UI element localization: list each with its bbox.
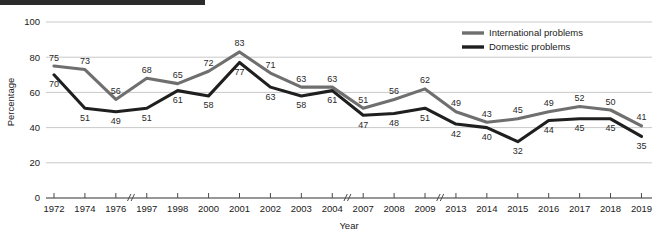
x-tick-label: 1972: [43, 203, 64, 214]
data-point-label: 52: [575, 93, 585, 103]
data-point-label: 83: [235, 38, 245, 48]
x-tick-label: 1997: [136, 203, 157, 214]
data-point-label: 56: [389, 86, 399, 96]
x-tick-label: 2013: [445, 203, 466, 214]
data-point-label: 56: [111, 86, 121, 96]
data-point-label: 45: [606, 123, 616, 133]
y-axis-title: Percentage: [5, 78, 16, 127]
data-point-label: 70: [49, 79, 59, 89]
data-point-label: 75: [49, 53, 59, 63]
data-point-label: 65: [173, 70, 183, 80]
data-point-label: 51: [358, 95, 368, 105]
y-tick-label: 0: [35, 192, 40, 203]
data-point-label: 44: [544, 125, 554, 135]
data-point-label: 58: [296, 100, 306, 110]
data-point-label: 40: [482, 132, 492, 142]
x-tick-label: 2003: [291, 203, 312, 214]
data-point-label: 61: [173, 95, 183, 105]
y-tick-label: 60: [29, 87, 40, 98]
data-point-label: 61: [327, 95, 337, 105]
data-point-label: 35: [636, 141, 646, 151]
x-tick-label: 1998: [167, 203, 188, 214]
data-point-label: 58: [204, 100, 214, 110]
x-tick-label: 1976: [105, 203, 126, 214]
line-chart: 020406080100Percentage197219741976199719…: [0, 0, 662, 251]
data-point-label: 63: [265, 92, 275, 102]
x-axis-title: Year: [339, 220, 358, 231]
x-tick-label: 2007: [353, 203, 374, 214]
data-point-label: 51: [80, 113, 90, 123]
legend-label-domestic: Domestic problems: [489, 41, 571, 52]
x-tick-label: 2004: [322, 203, 343, 214]
data-point-label: 49: [111, 116, 121, 126]
data-point-label: 49: [451, 98, 461, 108]
y-tick-label: 40: [29, 122, 40, 133]
x-tick-label: 2000: [198, 203, 219, 214]
x-tick-label: 2016: [538, 203, 559, 214]
x-tick-label: 2002: [260, 203, 281, 214]
data-point-label: 45: [575, 123, 585, 133]
data-point-label: 42: [451, 129, 461, 139]
x-tick-label: 2001: [229, 203, 250, 214]
data-point-label: 47: [358, 120, 368, 130]
data-point-label: 48: [389, 118, 399, 128]
data-point-label: 51: [420, 113, 430, 123]
data-point-label: 43: [482, 109, 492, 119]
data-point-label: 63: [327, 74, 337, 84]
data-point-label: 32: [513, 146, 523, 156]
x-tick-label: 2018: [600, 203, 621, 214]
x-tick-label: 1974: [74, 203, 95, 214]
data-point-label: 77: [235, 67, 245, 77]
data-point-label: 49: [544, 98, 554, 108]
data-point-label: 41: [636, 112, 646, 122]
data-point-label: 50: [606, 97, 616, 107]
x-tick-label: 2019: [631, 203, 652, 214]
data-point-label: 68: [142, 65, 152, 75]
chart-canvas: 020406080100Percentage197219741976199719…: [0, 0, 662, 251]
y-tick-label: 80: [29, 52, 40, 63]
data-point-label: 63: [296, 74, 306, 84]
data-point-label: 62: [420, 75, 430, 85]
legend-label-international: International problems: [489, 27, 583, 38]
data-point-label: 72: [204, 58, 214, 68]
x-tick-label: 2017: [569, 203, 590, 214]
x-tick-label: 2009: [414, 203, 435, 214]
y-tick-label: 100: [24, 16, 40, 27]
data-point-label: 73: [80, 56, 90, 66]
x-tick-label: 2014: [476, 203, 497, 214]
x-tick-label: 2008: [384, 203, 405, 214]
data-point-label: 45: [513, 105, 523, 115]
x-tick-label: 2015: [507, 203, 528, 214]
data-point-label: 71: [265, 60, 275, 70]
data-point-label: 51: [142, 113, 152, 123]
y-tick-label: 20: [29, 157, 40, 168]
